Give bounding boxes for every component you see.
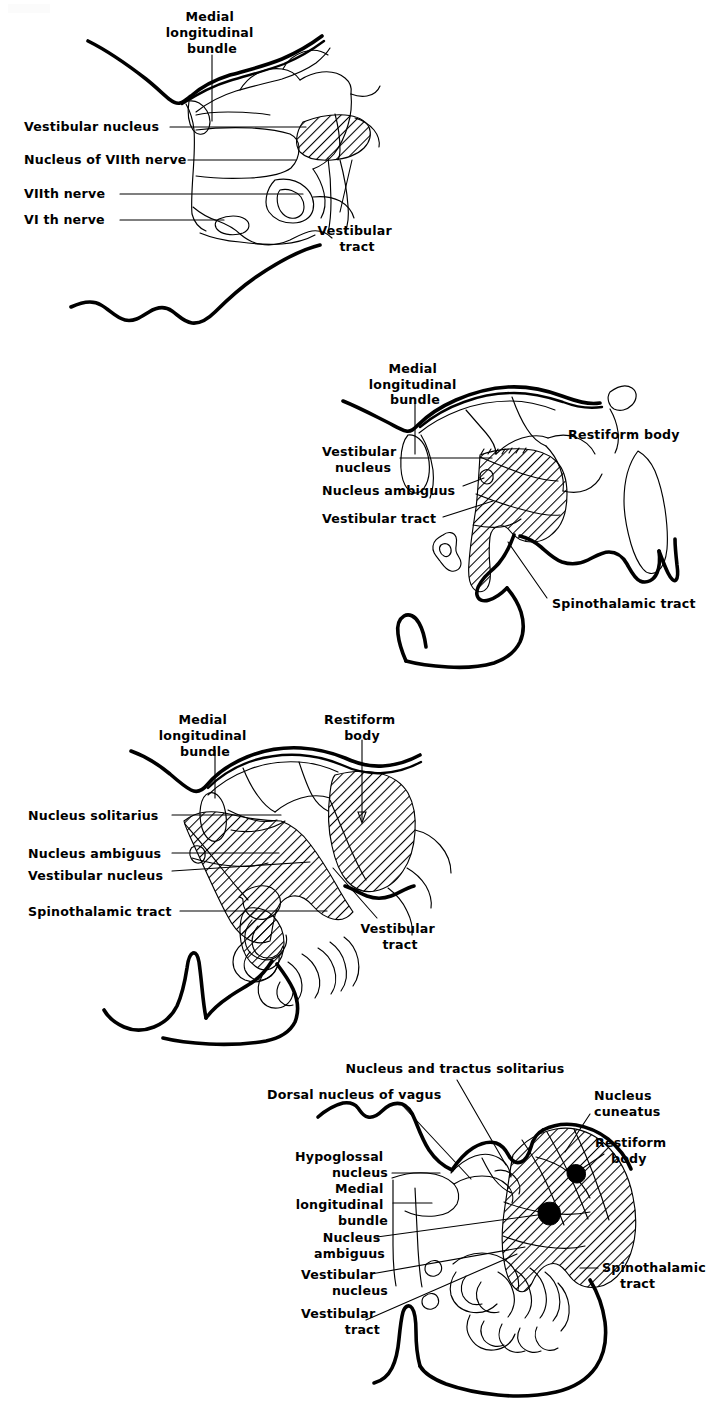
nucleus-ambiguus-blob bbox=[538, 1202, 560, 1225]
olive-fold-1 bbox=[450, 1272, 497, 1313]
label-vestibular-nucleus: Vestibular nucleus bbox=[28, 868, 163, 883]
ventral-tegmental-border bbox=[193, 207, 332, 245]
label-restiform-body: Restiform body bbox=[324, 712, 400, 743]
pyramid-spike bbox=[104, 953, 206, 1030]
vii-nerve-loop-outer bbox=[266, 179, 314, 223]
label-nucleus-ambiguus: Nucleus ambiguus bbox=[28, 846, 161, 861]
reticular-nest-a bbox=[466, 410, 496, 454]
olive-fold-3 bbox=[477, 1282, 499, 1313]
restiform-arrow-mark bbox=[567, 1165, 586, 1183]
label-nucleus-ambiguus: Nucleus ambiguus bbox=[314, 1230, 385, 1261]
label-vestibular-nucleus: Vestibular nucleus bbox=[322, 444, 401, 475]
nucleus-vii-outline bbox=[196, 128, 299, 179]
label-nucleus-of-viith-nerve: Nucleus of VIIth nerve bbox=[24, 152, 187, 167]
label-medial-longitudinal-bundle: Medial longitudinal bundle bbox=[159, 712, 251, 759]
label-dorsal-nucleus-of-vagus: Dorsal nucleus of vagus bbox=[267, 1087, 441, 1102]
label-vestibular-nucleus: Vestibular nucleus bbox=[24, 119, 159, 134]
dorsal-vagus-outline bbox=[454, 1176, 513, 1203]
lateral-lobe-1 bbox=[415, 830, 451, 873]
label-medial-longitudinal-bundle: Medial longitudinal bundle bbox=[166, 9, 258, 56]
vi-nerve-ellipse bbox=[215, 216, 249, 235]
label-vestibular-nucleus: Vestibular nucleus bbox=[301, 1267, 388, 1298]
label-restiform-body: Restiform body bbox=[568, 427, 680, 442]
dorsal-cell-2 bbox=[275, 796, 330, 812]
tegmentum-outline bbox=[186, 104, 206, 231]
reticular-cell-b bbox=[300, 72, 351, 94]
lesion-hatch-vestibular bbox=[297, 115, 371, 160]
hypoglossal-nucleus-outline bbox=[392, 1173, 459, 1217]
label-nucleus-solitarius: Nucleus solitarius bbox=[28, 808, 159, 823]
leader-nucleus-tractus-solitarius bbox=[457, 1080, 506, 1165]
lesion-hatch-restiform bbox=[329, 771, 416, 891]
olive-fold-2 bbox=[461, 1276, 482, 1305]
ventral-outline bbox=[163, 964, 297, 1044]
label-medial-longitudinal-bundle: Medial longitudinal bundle bbox=[369, 361, 461, 407]
basis-pontis-outline bbox=[71, 245, 320, 323]
olive-fold-12 bbox=[518, 1328, 541, 1352]
dorsal-surface-outline bbox=[343, 387, 600, 431]
label-spinothalamic-tract: Spinothalamic tract bbox=[552, 596, 696, 611]
lateral-border-lower bbox=[313, 169, 325, 218]
label-nucleus-cuneatus: Nucleus cuneatus bbox=[594, 1088, 661, 1119]
olive-fold-9 bbox=[318, 948, 336, 994]
ventral-hook-right bbox=[659, 539, 678, 581]
figure-1-pons-section: Medial longitudinal bundle Vestibular nu… bbox=[0, 0, 420, 345]
page-canvas: Medial longitudinal bundle Vestibular nu… bbox=[0, 0, 710, 1401]
ventral-median-fissure bbox=[374, 1306, 420, 1383]
ventral-second-line bbox=[200, 233, 315, 244]
label-spinothalamic-tract: Spinothalamic tract bbox=[28, 904, 172, 919]
figure-3-mid-medulla-section: Medial longitudinal bundle Restiform bod… bbox=[0, 690, 500, 1050]
ventral-pyramid-curve bbox=[406, 588, 523, 667]
label-nucleus-and-tractus-solitarius: Nucleus and tractus solitarius bbox=[346, 1061, 565, 1076]
label-medial-longitudinal-bundle: Medial longitudinal bundle bbox=[296, 1181, 388, 1228]
reticular-nest-c bbox=[512, 397, 546, 446]
lesion-hatch-vestibular-tract bbox=[240, 908, 284, 970]
label-vestibular-tract: Vestibular tract bbox=[317, 223, 396, 254]
olive-fold-10 bbox=[330, 942, 346, 991]
medial-island-inner bbox=[440, 544, 452, 557]
label-vestibular-tract: Vestibular tract bbox=[360, 921, 439, 952]
leader-dorsal-vagus bbox=[403, 1106, 471, 1179]
dorsal-inner-line bbox=[420, 393, 602, 427]
dorsal-cell-3 bbox=[299, 762, 328, 811]
olive-fold-7 bbox=[545, 1272, 560, 1321]
leader-spinothalamic bbox=[508, 542, 547, 598]
ventral-surface-outline bbox=[520, 536, 660, 582]
label-hypoglossal-nucleus: Hypoglossal nucleus bbox=[295, 1149, 388, 1180]
figure-4-lower-medulla-section: Nucleus and tractus solitarius Dorsal nu… bbox=[240, 1040, 710, 1401]
olive-fold-8 bbox=[302, 954, 320, 998]
label-vestibular-tract: Vestibular tract bbox=[301, 1306, 380, 1337]
olive-fold-10 bbox=[481, 1321, 504, 1346]
medial-island-outline bbox=[433, 533, 461, 572]
island-b bbox=[422, 1294, 439, 1310]
figure-2-upper-medulla-section: Medial longitudinal bundle Vestibular nu… bbox=[280, 350, 710, 690]
restiform-blob-top bbox=[608, 386, 636, 410]
leader-vestibular-tract bbox=[366, 1254, 517, 1320]
reticular-nest-f bbox=[563, 474, 602, 492]
reticular-cell-d bbox=[351, 86, 380, 96]
label-vestibular-tract: Vestibular tract bbox=[322, 511, 436, 526]
lateral-descending-1 bbox=[328, 158, 331, 233]
label-vith-nerve: VI th nerve bbox=[24, 212, 105, 227]
ventral-pyramid-notch bbox=[398, 615, 426, 661]
olive-fold-13 bbox=[535, 1327, 558, 1350]
label-viith-nerve: VIIth nerve bbox=[24, 186, 105, 201]
dorsal-cell-1 bbox=[243, 768, 275, 812]
median-raphe-line bbox=[196, 112, 270, 115]
label-nucleus-ambiguus: Nucleus ambiguus bbox=[322, 483, 455, 498]
